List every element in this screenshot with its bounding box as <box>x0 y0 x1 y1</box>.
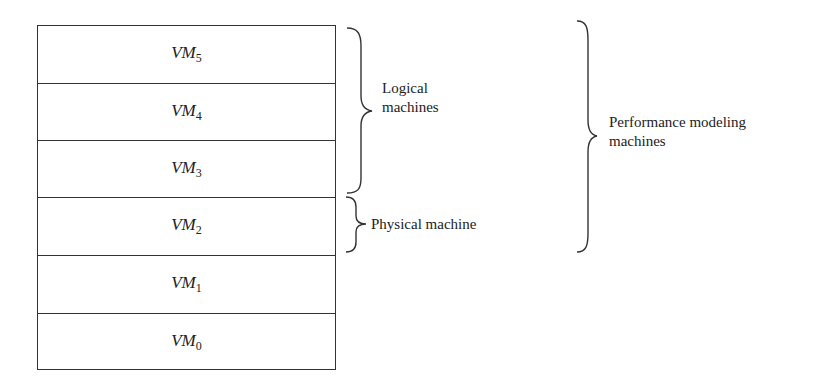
brace-layer <box>0 0 814 389</box>
physical-brace-icon <box>346 197 366 252</box>
logical-machines-label: Logical machines <box>382 79 439 117</box>
performance-brace-icon <box>577 21 597 252</box>
performance-modeling-label: Performance modeling machines <box>609 113 746 151</box>
physical-machine-label: Physical machine <box>371 215 476 234</box>
logical-brace-icon <box>347 28 372 193</box>
